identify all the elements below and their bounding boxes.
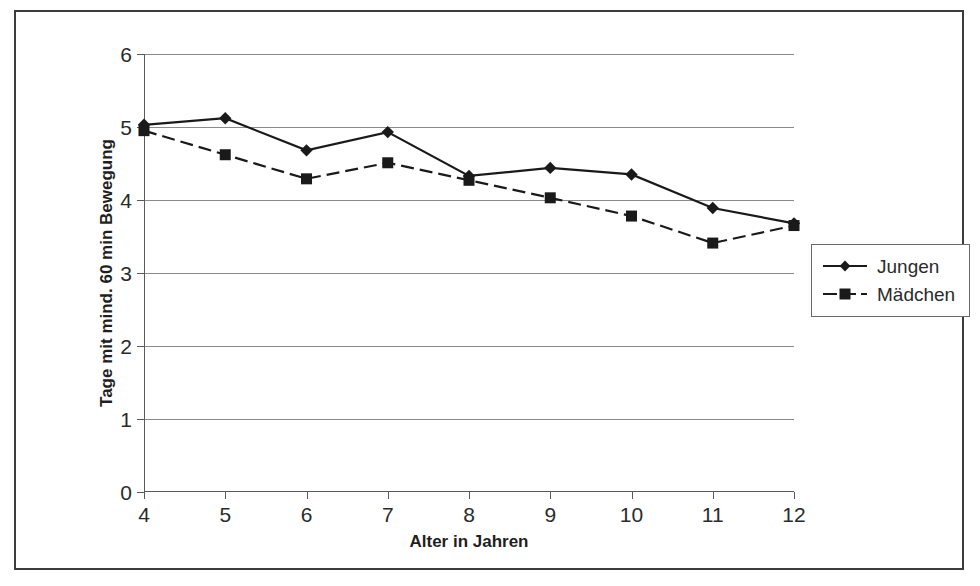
y-tick-0 — [137, 492, 144, 493]
legend-label-maedchen: Mädchen — [877, 285, 955, 304]
figure-border: Tage mit mind. 60 min Bewegung 0123456 4… — [14, 10, 964, 570]
legend-item-jungen: Jungen — [822, 252, 955, 280]
y-tick-4 — [137, 200, 144, 201]
series-line — [144, 131, 794, 243]
x-tick-9 — [550, 492, 551, 499]
x-tick-4 — [144, 492, 145, 499]
x-tick-label-5: 5 — [219, 504, 231, 525]
series-mädchen — [139, 125, 800, 248]
data-point-7 — [382, 157, 393, 168]
series-jungen — [138, 112, 800, 230]
data-point-6 — [300, 144, 312, 156]
plot-area: 0123456 456789101112 — [144, 54, 794, 492]
data-point-8 — [464, 175, 475, 186]
legend-key-jungen-icon — [822, 257, 868, 275]
y-tick-label-2: 2 — [120, 336, 132, 357]
x-tick-10 — [632, 492, 633, 499]
legend-label-jungen: Jungen — [877, 257, 939, 276]
y-tick-6 — [137, 54, 144, 55]
legend-key-maedchen-icon — [822, 285, 868, 303]
legend-item-maedchen: Mädchen — [822, 280, 955, 308]
data-point-11 — [707, 202, 719, 214]
x-tick-7 — [388, 492, 389, 499]
x-tick-5 — [225, 492, 226, 499]
y-tick-label-3: 3 — [120, 263, 132, 284]
y-tick-label-1: 1 — [120, 409, 132, 430]
x-tick-label-11: 11 — [702, 504, 724, 525]
x-tick-8 — [469, 492, 470, 499]
x-tick-label-4: 4 — [138, 504, 150, 525]
y-tick-1 — [137, 419, 144, 420]
y-tick-label-4: 4 — [120, 190, 132, 211]
y-tick-3 — [137, 273, 144, 274]
data-point-7 — [382, 126, 394, 138]
x-tick-label-7: 7 — [382, 504, 394, 525]
x-tick-label-10: 10 — [620, 504, 643, 525]
x-tick-label-6: 6 — [301, 504, 313, 525]
data-point-9 — [545, 192, 556, 203]
series-layer — [144, 54, 794, 492]
data-point-9 — [544, 162, 556, 174]
data-point-5 — [220, 149, 231, 160]
x-tick-label-12: 12 — [782, 504, 805, 525]
data-point-6 — [301, 173, 312, 184]
x-tick-12 — [794, 492, 795, 499]
data-point-5 — [219, 112, 231, 124]
y-tick-label-6: 6 — [120, 44, 132, 65]
y-tick-2 — [137, 346, 144, 347]
data-point-10 — [626, 211, 637, 222]
y-axis-title: Tage mit mind. 60 min Bewegung — [94, 54, 120, 492]
x-tick-label-8: 8 — [463, 504, 475, 525]
chart-legend: Jungen Mädchen — [811, 244, 970, 317]
data-point-11 — [707, 238, 718, 249]
x-tick-6 — [307, 492, 308, 499]
data-point-4 — [139, 125, 150, 136]
x-tick-label-9: 9 — [544, 504, 556, 525]
chart-figure: Tage mit mind. 60 min Bewegung 0123456 4… — [0, 0, 980, 586]
data-point-12 — [789, 220, 800, 231]
data-point-10 — [625, 168, 637, 180]
y-tick-label-5: 5 — [120, 117, 132, 138]
y-tick-label-0: 0 — [120, 482, 132, 503]
x-axis-title: Alter in Jahren — [144, 532, 794, 552]
x-tick-11 — [713, 492, 714, 499]
